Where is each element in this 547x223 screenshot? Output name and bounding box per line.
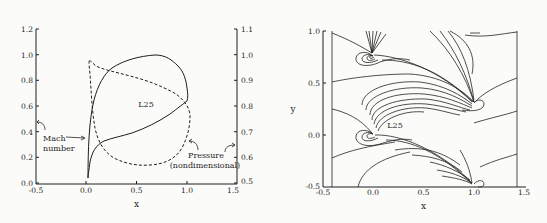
right-y-axis-label: y [289, 104, 296, 114]
ytick-label: 0.5 [308, 79, 320, 88]
ytick-label-right: 1.1 [241, 25, 253, 34]
mach-number-label-2: number [43, 144, 75, 153]
mach-number-curve [88, 55, 188, 178]
ytick-label: 1.2 [21, 25, 33, 34]
xtick-label: 1.0 [468, 188, 480, 197]
ytick-label: 0.2 [21, 153, 33, 162]
left-chart: 0.0 0.2 0.4 0.6 0.8 1.0 1.2 0.5 0.6 0.7 … [21, 25, 253, 209]
xtick-label: 1.5 [227, 186, 239, 195]
mach-number-label: Mach [43, 134, 66, 143]
airfoil-label-right: L25 [387, 121, 403, 130]
right-x-axis-label: x [421, 201, 426, 211]
xtick-label: 0.5 [418, 188, 430, 197]
xtick-label: -0.5 [316, 188, 331, 197]
pressure-label-2: (nondimensional) [170, 161, 240, 170]
xtick-label: -0.5 [29, 186, 44, 195]
pressure-label: Pressure [188, 151, 224, 160]
ytick-label-right: 0.8 [241, 102, 253, 111]
ytick-label: 1.0 [21, 51, 33, 60]
ytick-label-right: 0.9 [241, 76, 253, 85]
figure: 0.0 0.2 0.4 0.6 0.8 1.0 1.2 0.5 0.6 0.7 … [0, 0, 547, 223]
ytick-label: 0.0 [308, 131, 320, 140]
xtick-label: 1.5 [518, 188, 530, 197]
ytick-label-right: 0.7 [241, 128, 253, 137]
left-x-ticks: -0.5 0.0 0.5 1.0 1.5 [29, 181, 239, 195]
mach-arrow [66, 137, 84, 138]
ytick-label-right: 1.0 [241, 51, 253, 60]
xtick-label: 1.0 [181, 186, 193, 195]
left-x-axis-label: x [134, 199, 139, 209]
right-chart: 1.0 0.5 0.0 -0.5 -0.5 0.0 0.5 1.0 1.5 x … [289, 27, 530, 211]
ytick-label: 1.0 [308, 27, 320, 36]
ytick-label-right: 0.5 [241, 177, 253, 186]
xtick-label: 0.5 [131, 186, 143, 195]
ytick-label: 0.6 [21, 102, 33, 111]
ytick-label: 0.4 [21, 128, 33, 137]
right-chart-x-ticks: -0.5 0.0 0.5 1.0 1.5 [316, 188, 530, 197]
mach-contours [332, 31, 517, 187]
xtick-label: 0.0 [80, 186, 92, 195]
xtick-label: 0.0 [367, 188, 379, 197]
ytick-label-right: 0.6 [241, 153, 253, 162]
ytick-label: 0.8 [21, 76, 33, 85]
airfoil-label-left: L25 [138, 100, 154, 109]
